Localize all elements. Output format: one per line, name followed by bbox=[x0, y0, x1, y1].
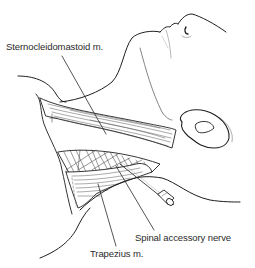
label-sternocleidomastoid: Sternocleidomastoid m. bbox=[6, 42, 103, 52]
ear bbox=[180, 110, 232, 148]
lower-shoulder-contour bbox=[40, 177, 240, 258]
shoulder-outline bbox=[18, 76, 72, 214]
illustration-canvas: Sternocleidomastoid m. Spinal accessory … bbox=[0, 0, 255, 268]
label-trapezius: Trapezius m. bbox=[90, 249, 143, 259]
label-spinal-accessory-nerve: Spinal accessory nerve bbox=[135, 233, 231, 243]
neck-contour bbox=[140, 48, 172, 120]
sternocleidomastoid-muscle bbox=[40, 98, 176, 148]
leader-line-trapezius bbox=[98, 184, 116, 246]
